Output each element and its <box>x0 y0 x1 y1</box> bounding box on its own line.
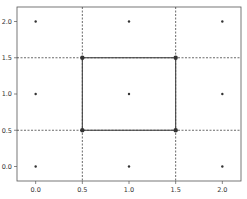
vertex-point <box>173 128 177 132</box>
vertex-point <box>80 128 84 132</box>
data-point <box>221 93 223 95</box>
data-point <box>128 20 130 22</box>
y-tick-label: 0.5 <box>2 127 12 135</box>
data-point <box>34 20 36 22</box>
y-tick-label: 0.0 <box>2 163 12 171</box>
scatter-chart: 0.00.51.01.52.0 0.00.51.01.52.0 <box>0 0 247 199</box>
x-tick-label: 1.5 <box>170 186 180 194</box>
data-point <box>221 165 223 167</box>
x-tick-label: 1.0 <box>124 186 134 194</box>
y-tick-label: 2.0 <box>2 18 12 26</box>
y-axis-ticks: 0.00.51.01.52.0 <box>2 18 17 171</box>
y-tick-label: 1.5 <box>2 54 12 62</box>
x-tick-label: 0.0 <box>30 186 40 194</box>
x-axis-ticks: 0.00.51.01.52.0 <box>30 181 227 194</box>
data-point <box>128 165 130 167</box>
y-tick-label: 1.0 <box>2 90 12 98</box>
data-point <box>34 165 36 167</box>
x-tick-label: 0.5 <box>77 186 87 194</box>
data-point <box>221 20 223 22</box>
vertex-point <box>173 56 177 60</box>
data-point <box>34 93 36 95</box>
x-tick-label: 2.0 <box>217 186 227 194</box>
vertex-point <box>80 56 84 60</box>
data-point <box>128 93 130 95</box>
